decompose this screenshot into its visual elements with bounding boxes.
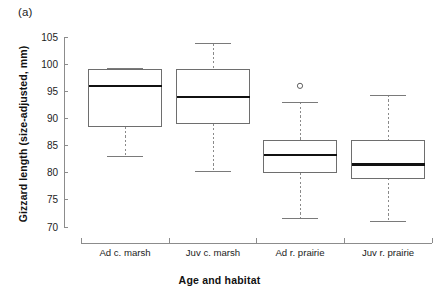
x-axis-category-label: Juv r. prairie — [362, 247, 414, 258]
x-axis-category-label: Juv c. marsh — [186, 247, 240, 258]
y-axis-tick-label: 95 — [47, 86, 59, 97]
outlier-point — [297, 83, 302, 88]
y-axis-tick-label: 80 — [47, 167, 59, 178]
x-axis-category-label: Ad r. prairie — [275, 247, 324, 258]
x-axis-category-label: Ad c. marsh — [99, 247, 150, 258]
y-axis-tick-label: 85 — [47, 140, 59, 151]
box-3 — [264, 140, 337, 173]
box-4 — [352, 140, 425, 178]
y-axis-tick-label: 105 — [41, 32, 58, 43]
boxplot-canvas: 707580859095100105Ad c. marshJuv c. mars… — [0, 0, 439, 299]
y-axis-tick-label: 70 — [47, 222, 59, 233]
figure-panel-a: (a) Gizzard length (size-adjusted, mm) A… — [0, 0, 439, 299]
y-axis-tick-label: 90 — [47, 113, 59, 124]
y-axis-tick-label: 75 — [47, 194, 59, 205]
box-1 — [89, 70, 162, 127]
y-axis-tick-label: 100 — [41, 59, 58, 70]
